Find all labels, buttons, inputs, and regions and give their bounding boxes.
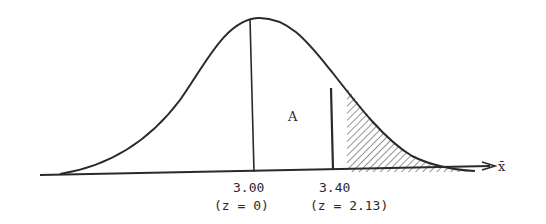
marker-mean-value: 3.00 — [233, 180, 264, 195]
mean-line — [250, 19, 254, 172]
normal-curve-diagram: A x̄ 3.00 (z = 0) 3.40 (z = 2.13) — [0, 0, 546, 224]
marker-mean-z: (z = 0) — [214, 198, 269, 213]
axis-label-xbar: x̄ — [498, 159, 506, 174]
region-label-a: A — [287, 109, 298, 124]
cutoff-line — [331, 88, 333, 170]
marker-cutoff-z: (z = 2.13) — [310, 198, 388, 213]
normal-curve — [60, 18, 475, 174]
marker-cutoff-value: 3.40 — [319, 180, 350, 195]
shaded-tail-region — [340, 80, 480, 180]
